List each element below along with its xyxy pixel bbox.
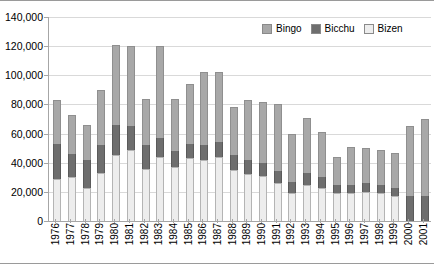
- bar-segment-bizen: [230, 170, 238, 221]
- y-axis-tick-label: 120,000: [0, 40, 43, 52]
- x-axis-tick-label: 1980: [109, 223, 120, 245]
- bar-segment-bicchu: [406, 196, 414, 221]
- bar-segment-bingo: [97, 90, 105, 145]
- bar-segment-bicchu: [83, 160, 91, 188]
- bar-segment-bingo: [362, 148, 370, 183]
- bar-segment-bicchu: [97, 145, 105, 173]
- bar-segment-bicchu: [230, 155, 238, 170]
- y-axis-tick-label: 60,000: [0, 128, 43, 140]
- bar-segment-bingo: [391, 153, 399, 188]
- bar-segment-bizen: [259, 176, 267, 221]
- x-axis-tick-label: 1998: [374, 223, 385, 245]
- x-axis-tick-label: 1988: [227, 223, 238, 245]
- bar-segment-bicchu: [362, 183, 370, 192]
- stacked-bar-chart: BingoBicchuBizen 020,00040,00060,00080,0…: [0, 0, 434, 264]
- x-axis-tick-label: 1984: [168, 223, 179, 245]
- bar-segment-bizen: [127, 150, 135, 221]
- top-divider: [0, 0, 434, 1]
- bar-column: [230, 107, 238, 221]
- x-axis-tick-label: 1981: [124, 223, 135, 245]
- bar-segment-bizen: [156, 157, 164, 221]
- y-axis-tick-label: 20,000: [0, 186, 43, 198]
- bar-segment-bingo: [347, 147, 355, 185]
- bar-segment-bingo: [112, 45, 120, 125]
- bar-column: [142, 99, 150, 221]
- bar-segment-bingo: [303, 118, 311, 173]
- bar-segment-bizen: [377, 193, 385, 221]
- bar-segment-bingo: [244, 100, 252, 160]
- x-axis-tick-label: 1979: [94, 223, 105, 245]
- bar-column: [68, 115, 76, 221]
- bar-segment-bicchu: [377, 185, 385, 194]
- bar-segment-bicchu: [259, 163, 267, 176]
- bar-segment-bingo: [68, 115, 76, 154]
- bar-segment-bicchu: [333, 185, 341, 194]
- bar-segment-bingo: [171, 99, 179, 151]
- bar-segment-bicchu: [112, 125, 120, 156]
- bar-segment-bizen: [68, 177, 76, 221]
- bar-column: [406, 126, 414, 221]
- bar-column: [97, 90, 105, 221]
- bar-segment-bizen: [53, 179, 61, 221]
- x-axis-tick-label: 1994: [315, 223, 326, 245]
- bar-segment-bicchu: [391, 188, 399, 197]
- bar-segment-bingo: [142, 99, 150, 146]
- x-axis-tick-label: 1982: [139, 223, 150, 245]
- x-axis-tick-label: 1985: [183, 223, 194, 245]
- x-axis-tick-label: 1987: [212, 223, 223, 245]
- bar-column: [362, 148, 370, 221]
- bar-segment-bingo: [53, 100, 61, 144]
- y-axis-tick-label: 100,000: [0, 69, 43, 81]
- y-axis-tick-label: 40,000: [0, 157, 43, 169]
- bar-segment-bingo: [333, 157, 341, 185]
- bar-segment-bicchu: [288, 182, 296, 194]
- bar-segment-bizen: [200, 160, 208, 221]
- bar-column: [318, 132, 326, 221]
- bar-column: [186, 84, 194, 221]
- bar-segment-bingo: [421, 119, 429, 196]
- bar-column: [288, 134, 296, 221]
- bar-segment-bizen: [303, 185, 311, 221]
- bar-segment-bizen: [171, 167, 179, 221]
- bar-column: [53, 100, 61, 221]
- bar-column: [274, 104, 282, 221]
- bar-segment-bingo: [377, 150, 385, 185]
- bar-segment-bicchu: [318, 177, 326, 187]
- bar-segment-bizen: [274, 183, 282, 221]
- x-axis-tick-label: 2001: [418, 223, 429, 245]
- bar-column: [244, 100, 252, 221]
- bar-segment-bicchu: [215, 142, 223, 157]
- bar-segment-bicchu: [186, 144, 194, 159]
- bar-column: [347, 147, 355, 221]
- bar-segment-bingo: [318, 132, 326, 177]
- bar-segment-bicchu: [127, 126, 135, 149]
- bar-segment-bicchu: [171, 151, 179, 167]
- x-axis-tick-label: 1992: [285, 223, 296, 245]
- bar-column: [303, 118, 311, 221]
- bar-segment-bingo: [274, 104, 282, 171]
- x-axis-tick-label: 2000: [403, 223, 414, 245]
- bar-segment-bizen: [347, 193, 355, 221]
- bar-segment-bicchu: [421, 196, 429, 221]
- bar-segment-bicchu: [68, 154, 76, 177]
- bar-segment-bicchu: [156, 138, 164, 157]
- x-axis-tick-label: 1996: [344, 223, 355, 245]
- bar-column: [112, 45, 120, 221]
- bar-segment-bicchu: [303, 173, 311, 185]
- bar-column: [83, 125, 91, 221]
- x-axis-tick-label: 1976: [50, 223, 61, 245]
- bar-segment-bizen: [186, 158, 194, 221]
- bar-segment-bingo: [186, 84, 194, 144]
- bar-segment-bingo: [83, 125, 91, 160]
- bar-segment-bicchu: [347, 185, 355, 194]
- bar-segment-bicchu: [142, 145, 150, 168]
- bar-segment-bizen: [362, 192, 370, 221]
- bar-segment-bingo: [288, 134, 296, 182]
- bar-segment-bizen: [333, 193, 341, 221]
- bar-segment-bingo: [230, 107, 238, 155]
- x-axis-tick-label: 1983: [153, 223, 164, 245]
- bar-column: [127, 46, 135, 221]
- bar-segment-bizen: [244, 174, 252, 221]
- x-axis-tick-label: 1986: [197, 223, 208, 245]
- x-axis: 1976197719781979198019811982198319841985…: [48, 223, 430, 264]
